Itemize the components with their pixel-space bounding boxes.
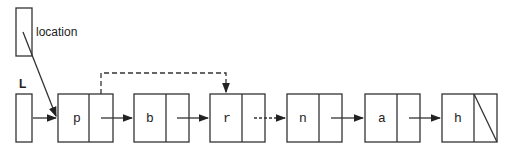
- head-label: L: [19, 77, 26, 91]
- location-arrow: [23, 32, 56, 116]
- node-value: n: [299, 111, 307, 126]
- node-value: r: [223, 111, 231, 126]
- node-value: b: [146, 111, 154, 126]
- node-value: h: [454, 111, 462, 126]
- head-pointer-box: [16, 94, 32, 142]
- location-label: location: [36, 25, 77, 39]
- null-slash: [474, 94, 497, 142]
- node-value: p: [73, 111, 81, 126]
- node-h: [442, 94, 497, 142]
- node-value: a: [378, 111, 386, 126]
- linked-list-diagram: location L p b r n a h: [0, 0, 510, 154]
- dashed-bypass-arrow: [101, 73, 226, 94]
